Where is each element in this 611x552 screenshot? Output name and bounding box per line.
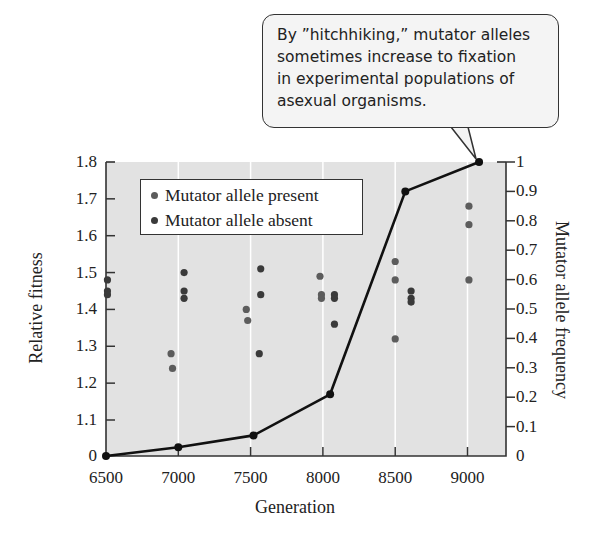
data-point (167, 350, 174, 357)
data-point (180, 287, 187, 294)
legend-item-present: Mutator allele present (151, 183, 362, 208)
frequency-point (326, 390, 334, 398)
legend-label: Mutator allele absent (165, 208, 313, 233)
frequency-point (401, 187, 409, 195)
callout-line: sometimes increase to fixation (277, 46, 546, 68)
callout-line: asexual organisms. (277, 90, 546, 112)
tick-label: 0.6 (516, 271, 537, 288)
frequency-point (249, 431, 257, 439)
y-axis-left-label: Relative fitness (26, 252, 47, 363)
data-point (331, 295, 338, 302)
tick-label: 0.3 (516, 359, 537, 376)
tick-label: 1.2 (76, 374, 97, 391)
y-axis-right-label: Mutator allele frequency (551, 221, 572, 399)
data-point (331, 321, 338, 328)
tick-label: 0.2 (516, 388, 537, 405)
legend-label: Mutator allele present (165, 183, 319, 208)
tick-label: 0.4 (516, 329, 537, 346)
frequency-point (475, 158, 483, 166)
data-point (392, 258, 399, 265)
tick-label: 6500 (89, 469, 123, 486)
legend-dot-icon (151, 217, 158, 224)
tick-label: 1.7 (76, 190, 97, 207)
data-point (104, 291, 111, 298)
tick-label: 1.4 (76, 300, 97, 317)
tick-label: 1.6 (76, 227, 97, 244)
data-point (244, 317, 251, 324)
callout-pointer (451, 127, 476, 159)
data-point (316, 273, 323, 280)
tick-label: 1.3 (76, 337, 97, 354)
tick-label: 7500 (234, 469, 268, 486)
data-point (392, 335, 399, 342)
data-point (465, 221, 472, 228)
tick-label: 0.9 (516, 182, 537, 199)
data-point (257, 291, 264, 298)
data-point (180, 295, 187, 302)
data-point (243, 306, 250, 313)
data-point (169, 365, 176, 372)
data-point (256, 350, 263, 357)
tick-label: 0.7 (516, 241, 537, 258)
tick-label: 0 (516, 447, 525, 464)
tick-label: 1 (516, 153, 525, 170)
tick-label: 1.8 (76, 153, 97, 170)
legend-dot-icon (151, 192, 158, 199)
x-axis-label: Generation (255, 497, 335, 518)
data-point (257, 265, 264, 272)
frequency-point (174, 443, 182, 451)
callout-line: in experimental populations of (277, 68, 546, 90)
legend-item-absent: Mutator allele absent (151, 208, 362, 233)
data-point (392, 276, 399, 283)
callout-pointer-shape (451, 127, 476, 159)
tick-label: 7000 (161, 469, 195, 486)
data-point (408, 287, 415, 294)
tick-label: 1.5 (76, 264, 97, 281)
callout-line: By ”hitchhiking,” mutator alleles (277, 24, 546, 46)
data-point (408, 298, 415, 305)
annotation-callout: By ”hitchhiking,” mutator alleles someti… (262, 14, 559, 128)
tick-label: 0.8 (516, 212, 537, 229)
data-point (465, 276, 472, 283)
tick-label: 8000 (306, 469, 340, 486)
data-point (104, 276, 111, 283)
data-point (180, 269, 187, 276)
data-point (318, 295, 325, 302)
tick-label: 9000 (451, 469, 485, 486)
data-point (465, 203, 472, 210)
legend: Mutator allele present Mutator allele ab… (140, 179, 363, 235)
tick-label: 1.1 (76, 411, 97, 428)
tick-label: 0.5 (516, 300, 537, 317)
tick-label: 0.1 (516, 418, 537, 435)
tick-label: 0 (89, 447, 98, 464)
tick-label: 8500 (378, 469, 412, 486)
frequency-point (102, 452, 110, 460)
